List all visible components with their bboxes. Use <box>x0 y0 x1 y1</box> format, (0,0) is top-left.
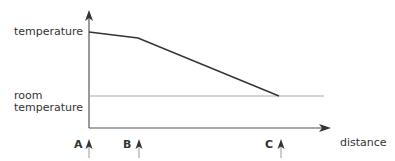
temperature-profile-line <box>89 32 279 96</box>
marker-b-arrow-icon <box>136 139 143 158</box>
y-label-temperature: temperature <box>14 25 83 38</box>
marker-b-label: B <box>123 138 131 151</box>
marker-a-label: A <box>74 138 83 151</box>
x-label-distance: distance <box>340 136 387 149</box>
marker-c-arrow-icon <box>278 139 285 158</box>
marker-a-arrow-icon <box>86 139 93 158</box>
y-label-room-temperature: temperature <box>14 101 83 114</box>
marker-c-label: C <box>265 138 273 151</box>
